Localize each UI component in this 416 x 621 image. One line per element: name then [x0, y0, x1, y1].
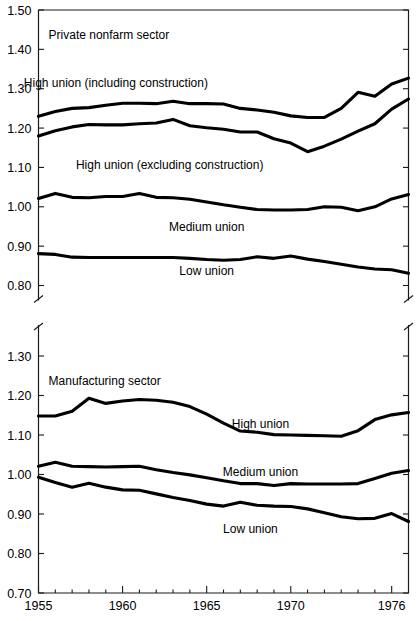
panel-label-manufacturing: Manufacturing sector	[49, 374, 161, 388]
ytick-label-top-7: 1.50	[7, 4, 31, 18]
panel-label-private-nonfarm: Private nonfarm sector	[49, 28, 170, 42]
series-label-private-nonfarm-sector-3: Low union	[179, 264, 234, 278]
ytick-label-top-0: 0.80	[7, 279, 31, 293]
chart-canvas: 0.800.901.001.101.201.301.401.500.700.80…	[0, 0, 416, 621]
xtick-label-1960: 1960	[109, 599, 137, 613]
xtick-label-1965: 1965	[193, 599, 221, 613]
ytick-label-top-6: 1.40	[7, 43, 31, 57]
series-label-private-nonfarm-sector-1: High union (excluding construction)	[76, 158, 263, 172]
ytick-label-top-4: 1.20	[7, 122, 31, 136]
series-label-manufacturing-sector-1: Medium union	[223, 465, 298, 479]
ytick-label-bottom-5: 1.20	[7, 389, 31, 403]
ytick-label-top-1: 0.90	[7, 240, 31, 254]
chart-figure: 0.800.901.001.101.201.301.401.500.700.80…	[0, 0, 416, 621]
lower-panel-frame	[39, 325, 409, 593]
ytick-label-bottom-2: 0.90	[7, 508, 31, 522]
ytick-label-top-3: 1.10	[7, 161, 31, 175]
series-label-manufacturing-sector-2: Low union	[223, 522, 278, 536]
ytick-label-bottom-1: 0.80	[7, 547, 31, 561]
ytick-label-bottom-3: 1.00	[7, 468, 31, 482]
xtick-label-1970: 1970	[277, 599, 305, 613]
series-label-manufacturing-sector-0: High union	[232, 417, 289, 431]
ytick-label-bottom-6: 1.30	[7, 350, 31, 364]
xtick-label-1976: 1976	[378, 599, 406, 613]
series-line-private-nonfarm-sector-2	[39, 193, 409, 210]
series-label-private-nonfarm-sector-2: Medium union	[169, 220, 244, 234]
ytick-label-bottom-4: 1.10	[7, 429, 31, 443]
series-line-manufacturing-sector-0	[39, 398, 409, 436]
series-label-private-nonfarm-sector-0: High union (including construction)	[24, 76, 208, 90]
xtick-label-1955: 1955	[25, 599, 53, 613]
ytick-label-top-2: 1.00	[7, 200, 31, 214]
